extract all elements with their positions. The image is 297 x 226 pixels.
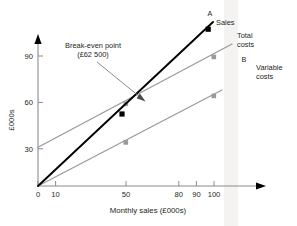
point-letter-b: B: [242, 55, 247, 64]
variable-costs-marker-50: [124, 140, 129, 145]
x-tick-labels-group: 0 10 50 80 90 100: [36, 190, 220, 199]
x-tick-label-0: 0: [36, 190, 40, 199]
x-axis-title: Monthly sales (£000s): [110, 206, 187, 215]
y-axis-title: £000s: [7, 109, 16, 130]
y-tick-label-30: 30: [25, 145, 33, 154]
annotation-break-even: Break-even point (£62 500): [65, 41, 145, 102]
annotation-break-even-line2: (£62 500): [77, 50, 109, 59]
y-tick-label-90: 90: [25, 52, 33, 61]
x-tick-label-50: 50: [122, 190, 130, 199]
y-tick-label-60: 60: [25, 98, 33, 107]
variable-costs-line: [38, 90, 222, 186]
x-tick-label-100: 100: [208, 190, 221, 199]
series-label-variable-costs: Variable costs: [256, 63, 283, 81]
series-variable-costs: [38, 90, 222, 186]
series-label-variable-costs-line2: costs: [256, 72, 274, 81]
series-label-total-costs-line1: Total: [237, 31, 253, 40]
series-label-sales-text: Sales: [216, 18, 235, 27]
total-costs-marker-100: [212, 55, 217, 60]
sales-marker-50: [119, 111, 124, 116]
annotation-break-even-leader: [97, 62, 140, 97]
series-label-sales: Sales: [216, 18, 235, 27]
variable-costs-marker-100: [212, 94, 217, 99]
annotation-break-even-line1: Break-even point: [65, 41, 121, 50]
chart-canvas: 0 10 50 80 90 100 30 60 90 Monthly sales…: [0, 0, 297, 226]
series-label-total-costs: Total costs: [237, 31, 255, 49]
y-axis-arrowhead: [34, 34, 41, 44]
break-even-chart: 0 10 50 80 90 100 30 60 90 Monthly sales…: [0, 0, 297, 226]
x-tick-label-10: 10: [51, 190, 59, 199]
point-letter-a: A: [208, 9, 213, 18]
x-tick-label-80: 80: [175, 190, 183, 199]
y-ticks-group: [38, 56, 43, 149]
sales-marker-100: [206, 27, 211, 32]
x-axis-arrowhead: [256, 182, 266, 189]
axes-group: [34, 34, 266, 190]
y-tick-labels-group: 30 60 90: [25, 52, 33, 154]
series-label-variable-costs-line1: Variable: [256, 63, 283, 72]
x-tick-label-90: 90: [192, 190, 200, 199]
series-label-total-costs-line2: costs: [237, 40, 255, 49]
x-ticks-group: [38, 181, 214, 186]
